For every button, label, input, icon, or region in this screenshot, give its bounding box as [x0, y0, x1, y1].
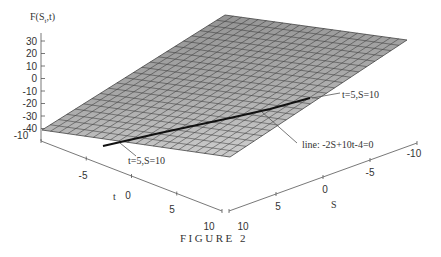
annotation-bottom: t=5,S=10: [128, 155, 165, 166]
t-tick-label: 10: [203, 221, 215, 232]
z-axis-label: F(St,t): [30, 11, 55, 25]
t-axis-label: t: [113, 191, 116, 202]
t-tick-label: 5: [169, 204, 175, 215]
z-tick-label: 0: [31, 73, 37, 84]
surface: [42, 15, 407, 157]
surface-plot: t=5,S=10 t=5,S=10 line: -2S+10t-4=0 3020…: [0, 0, 441, 257]
z-axis: 3020100-10-20-30-40 F(St,t): [23, 11, 55, 141]
s-tick-label: -10: [407, 148, 422, 159]
s-axis-label: S: [331, 199, 337, 210]
s-tick-label: -5: [366, 167, 375, 178]
s-tick-label: 5: [275, 201, 281, 212]
z-tick-label: -10: [23, 86, 38, 97]
annotation-top: t=5,S=10: [342, 89, 379, 100]
z-tick-label: 20: [26, 48, 38, 59]
z-tick-label: 10: [26, 61, 38, 72]
t-tick-label: 0: [125, 190, 131, 201]
figure-caption: FIGURE 2: [180, 232, 248, 244]
annotation-line: line: -2S+10t-4=0: [302, 139, 374, 150]
s-tick-label: 10: [237, 221, 249, 232]
z-tick-label: 30: [26, 36, 38, 47]
z-tick-label: -20: [23, 98, 38, 109]
s-tick-label: 0: [322, 184, 328, 195]
t-tick-label: -5: [79, 170, 88, 181]
z-tick-label: -30: [23, 111, 38, 122]
s-axis: 1050-5-10 S: [229, 141, 422, 232]
t-tick-label: -10: [14, 130, 29, 141]
